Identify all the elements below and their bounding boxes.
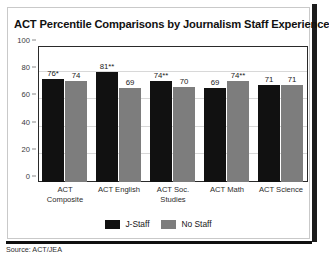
x-category-line: ACT Science — [250, 185, 312, 195]
bar-group: 76*74 — [38, 46, 92, 182]
bar-nostaff — [173, 87, 195, 182]
source-note: Source: ACT/JEA — [6, 245, 62, 254]
y-axis: 020406080100 — [0, 40, 36, 188]
chart-title: ACT Percentile Comparisons by Journalism… — [14, 18, 329, 30]
x-category-label: ACT Soc.Studies — [142, 185, 204, 204]
x-category-line: ACT Soc. — [142, 185, 204, 195]
bars-layer: 76*7481**6974**706974**7171 — [38, 46, 308, 182]
y-tick-mark-80 — [32, 67, 36, 68]
x-category-line: ACT Math — [196, 185, 258, 195]
bar-group: 74**70 — [146, 46, 200, 182]
bar-jstaff — [96, 72, 118, 182]
y-tick-label-40: 40 — [22, 117, 30, 126]
y-tick-mark-100 — [32, 40, 36, 41]
page-edge-shadow — [312, 4, 317, 242]
y-tick-mark-20 — [32, 148, 36, 149]
y-tick-mark-60 — [32, 94, 36, 95]
x-category-line: Composite — [34, 195, 96, 205]
x-category-label: ACT English — [88, 185, 150, 195]
legend-swatch-jstaff — [105, 220, 120, 229]
bar-group: 81**69 — [92, 46, 146, 182]
bar-value-label: 74** — [221, 71, 255, 80]
bar-value-label: 81** — [90, 62, 124, 71]
legend-swatch-nostaff — [161, 220, 176, 229]
bar-nostaff — [281, 85, 303, 182]
bar-jstaff — [42, 79, 64, 182]
bar-value-label: 71 — [275, 75, 309, 84]
x-category-label: ACT Math — [196, 185, 258, 195]
bar-value-label: 74 — [59, 71, 93, 80]
y-tick-mark-40 — [32, 121, 36, 122]
y-tick-label-80: 80 — [22, 63, 30, 72]
y-tick-label-60: 60 — [22, 90, 30, 99]
y-tick-label-20: 20 — [22, 144, 30, 153]
x-category-line: Studies — [142, 195, 204, 205]
legend-item-nostaff: No Staff — [161, 219, 211, 229]
chart-legend: J-StaffNo Staff — [0, 219, 317, 229]
legend-item-jstaff: J-Staff — [105, 219, 149, 229]
x-category-label: ACTComposite — [34, 185, 96, 204]
y-tick-label-0: 0 — [26, 172, 30, 181]
bar-jstaff — [150, 81, 172, 182]
y-tick-label-100: 100 — [17, 36, 30, 45]
bar-jstaff — [204, 88, 226, 182]
x-category-line: ACT English — [88, 185, 150, 195]
bar-nostaff — [227, 81, 249, 182]
bar-group: 7171 — [254, 46, 308, 182]
bar-nostaff — [119, 88, 141, 182]
x-category-label: ACT Science — [250, 185, 312, 195]
y-tick-mark-0 — [32, 176, 36, 177]
bar-group: 6974** — [200, 46, 254, 182]
legend-label: No Staff — [181, 219, 211, 229]
bar-value-label: 69 — [113, 78, 147, 87]
legend-label: J-Staff — [125, 219, 149, 229]
bar-value-label: 70 — [167, 77, 201, 86]
bar-jstaff — [258, 85, 280, 182]
bar-nostaff — [65, 81, 87, 182]
x-category-line: ACT — [34, 185, 96, 195]
footer-divider — [6, 241, 312, 244]
x-axis-labels: ACTCompositeACT EnglishACT Soc.StudiesAC… — [38, 185, 308, 215]
